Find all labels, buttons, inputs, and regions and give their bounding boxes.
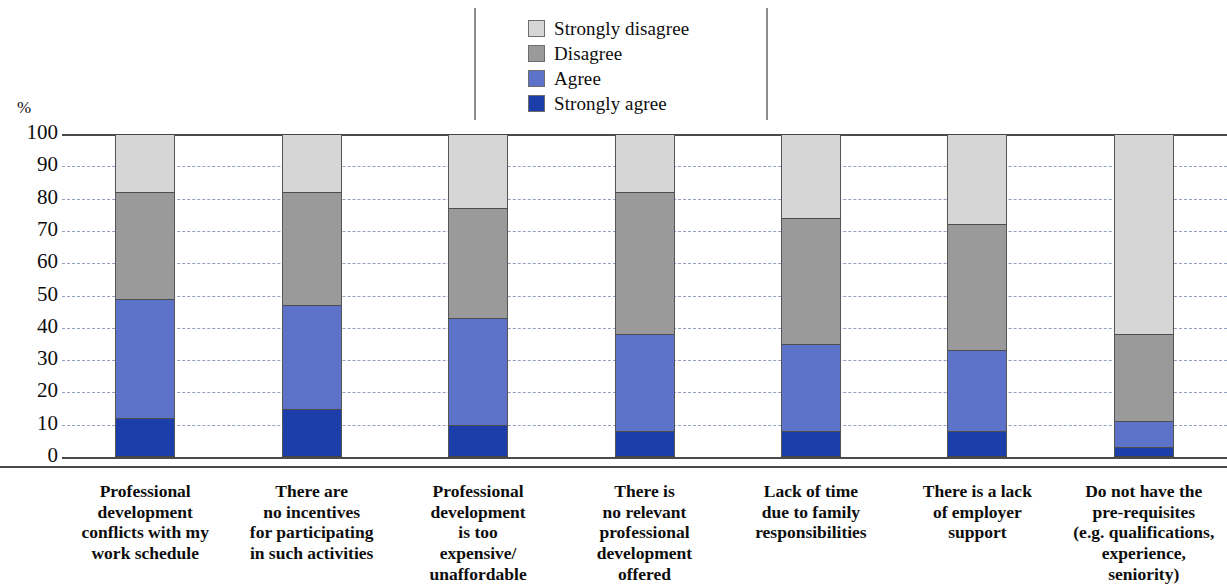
category-label-line: responsibilities	[714, 522, 908, 543]
y-axis-tick-label: 70	[12, 218, 58, 239]
category-label-line: no relevant	[547, 502, 741, 523]
y-axis-unit-label: %	[17, 99, 31, 116]
bar-segment[interactable]	[448, 425, 508, 457]
category-label-line: professional	[547, 522, 741, 543]
category-label-line: pre-requisites	[1047, 502, 1227, 523]
legend-swatch-icon	[528, 20, 545, 37]
category-label-line: due to family	[714, 502, 908, 523]
axis-baseline	[0, 466, 1227, 468]
y-axis-tick-label: 10	[12, 412, 58, 433]
y-axis-tick-label: 20	[12, 380, 58, 401]
legend-item-label: Agree	[554, 69, 601, 88]
bar-segment[interactable]	[1114, 334, 1174, 421]
category-label-line: There is	[547, 481, 741, 502]
bar-segment[interactable]	[947, 350, 1007, 431]
category-label-line: Do not have the	[1047, 481, 1227, 502]
bar-segment[interactable]	[282, 192, 342, 305]
legend-swatch-icon	[528, 70, 545, 87]
category-label-line: development	[547, 543, 741, 564]
bar-segment[interactable]	[615, 134, 675, 192]
legend-item: Disagree	[528, 41, 766, 66]
y-axis-tick-label: 0	[12, 445, 58, 466]
bar-segment[interactable]	[448, 134, 508, 208]
bar-segment[interactable]	[947, 224, 1007, 350]
x-axis-category-label: Professionaldevelopmentconflicts with my…	[48, 481, 242, 564]
category-label-line: Professional	[48, 481, 242, 502]
category-label-line: offered	[547, 564, 741, 584]
bar-segment[interactable]	[448, 208, 508, 318]
bar-segment[interactable]	[781, 218, 841, 344]
bar-segment[interactable]	[115, 418, 175, 457]
y-axis-tick-label: 90	[12, 154, 58, 175]
bar-segment[interactable]	[615, 192, 675, 334]
category-label-line: unaffordable	[381, 564, 575, 584]
bar-segment[interactable]	[781, 431, 841, 457]
y-axis-tick-label: 100	[12, 122, 58, 143]
category-label-line: development	[381, 502, 575, 523]
category-label-line: Professional	[381, 481, 575, 502]
category-label-line: conflicts with my	[48, 522, 242, 543]
x-axis-category-label: Do not have thepre-requisites(e.g. quali…	[1047, 481, 1227, 584]
bar-segment[interactable]	[115, 299, 175, 419]
category-label-line: for participating	[214, 522, 408, 543]
y-axis-tick-label: 40	[12, 315, 58, 336]
category-label-line: in such activities	[214, 543, 408, 564]
x-axis-category-label: Professionaldevelopmentis tooexpensive/u…	[381, 481, 575, 584]
bar-segment[interactable]	[115, 134, 175, 192]
legend-item: Strongly disagree	[528, 16, 766, 41]
category-label-line: support	[880, 522, 1074, 543]
legend-item-label: Strongly agree	[554, 94, 667, 113]
x-axis-category-label: There areno incentivesfor participatingi…	[214, 481, 408, 564]
bar-segment[interactable]	[282, 409, 342, 457]
x-axis-category-label: There isno relevantprofessionaldevelopme…	[547, 481, 741, 584]
bar-segment[interactable]	[615, 431, 675, 457]
category-label-line: work schedule	[48, 543, 242, 564]
category-label-line: of employer	[880, 502, 1074, 523]
category-label-line: is too	[381, 522, 575, 543]
bar-segment[interactable]	[1114, 421, 1174, 447]
y-axis-tick-label: 80	[12, 186, 58, 207]
category-label-line: expensive/	[381, 543, 575, 564]
bar-segment[interactable]	[781, 134, 841, 218]
legend: Strongly disagreeDisagreeAgreeStrongly a…	[474, 8, 768, 120]
x-axis-category-label: Lack of timedue to familyresponsibilitie…	[714, 481, 908, 543]
category-label-line: experience,	[1047, 543, 1227, 564]
legend-swatch-icon	[528, 95, 545, 112]
category-label-line: seniority)	[1047, 564, 1227, 584]
legend-item: Strongly agree	[528, 91, 766, 116]
y-axis-tick-label: 60	[12, 251, 58, 272]
category-label-line: Lack of time	[714, 481, 908, 502]
bar-segment[interactable]	[1114, 134, 1174, 334]
category-label-line: There is a lack	[880, 481, 1074, 502]
bar-segment[interactable]	[282, 134, 342, 192]
bar-segment[interactable]	[448, 318, 508, 425]
legend-item: Agree	[528, 66, 766, 91]
bar-segment[interactable]	[282, 305, 342, 408]
x-axis-category-label: There is a lackof employersupport	[880, 481, 1074, 543]
bar-segment[interactable]	[781, 344, 841, 431]
legend-item-label: Disagree	[554, 44, 622, 63]
category-label-line: no incentives	[214, 502, 408, 523]
bar-segment[interactable]	[615, 334, 675, 431]
category-label-line: There are	[214, 481, 408, 502]
bar-segment[interactable]	[1114, 447, 1174, 457]
legend-item-label: Strongly disagree	[554, 19, 689, 38]
bar-segment[interactable]	[947, 134, 1007, 224]
bar-segment[interactable]	[115, 192, 175, 299]
bar-segment[interactable]	[947, 431, 1007, 457]
y-axis-tick-label: 30	[12, 348, 58, 369]
legend-swatch-icon	[528, 45, 545, 62]
y-axis-tick-label: 50	[12, 283, 58, 304]
category-label-line: development	[48, 502, 242, 523]
category-label-line: (e.g. qualifications,	[1047, 522, 1227, 543]
